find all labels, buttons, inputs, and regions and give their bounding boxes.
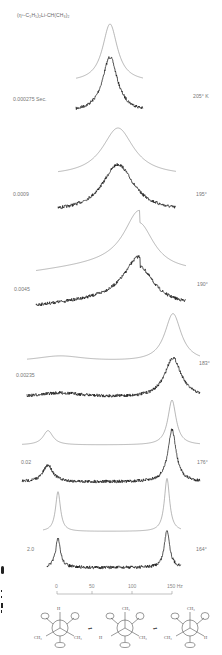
- svg-text:CH₃: CH₃: [164, 635, 172, 640]
- equilibrium-arrow-icon: ⇌: [153, 626, 157, 631]
- calculated-spectrum-5: [22, 400, 200, 445]
- temperature-label-1: 205° K: [193, 93, 209, 99]
- calculated-spectrum-4: [27, 314, 200, 360]
- page-edge-mark: [1, 590, 2, 592]
- lifetime-label-1: 0.000275 Sec.: [13, 96, 46, 102]
- page-edge-mark: [1, 610, 2, 613]
- svg-text:CH₃: CH₃: [139, 635, 147, 640]
- page-edge-mark: [1, 603, 3, 608]
- svg-text:CH₃: CH₃: [34, 635, 42, 640]
- svg-text:CH₃: CH₃: [74, 635, 82, 640]
- calculated-spectrum-3: [36, 210, 186, 270]
- experimental-spectrum-2: [58, 163, 176, 208]
- x-tick-150: 150 Hz: [167, 583, 183, 589]
- svg-text:CH₃: CH₃: [187, 606, 195, 611]
- newman-projection-3: CH₃ CH₃ H: [164, 606, 209, 648]
- newman-projection-2: CH₃ H CH₃: [99, 606, 147, 648]
- svg-text:CH₃: CH₃: [122, 606, 130, 611]
- experimental-spectrum-5: [22, 429, 200, 483]
- temperature-label-3: 190°: [197, 281, 208, 287]
- lifetime-label-2: 0.0009: [13, 191, 29, 197]
- experimental-spectrum-1: [76, 57, 143, 110]
- temperature-label-4: 183°: [199, 360, 210, 366]
- page-edge-mark: [1, 596, 2, 598]
- temperature-label-6: 164°: [196, 546, 207, 552]
- experimental-spectrum-4: [27, 357, 200, 397]
- experimental-spectrum-6: [47, 531, 181, 569]
- lifetime-label-6: 2.0: [27, 546, 34, 552]
- lifetime-label-3: 0.0045: [14, 286, 30, 292]
- svg-text:H: H: [204, 635, 208, 640]
- experimental-spectrum-3: [36, 255, 186, 305]
- x-tick-100: 100: [128, 583, 136, 589]
- calculated-spectrum-6: [43, 478, 181, 531]
- newman-projection-1: H CH₃ CH₃: [34, 606, 82, 648]
- lifetime-label-4: 0.00235: [16, 372, 35, 378]
- page-edge-mark: [1, 566, 4, 574]
- temperature-label-2: 195°: [196, 191, 207, 197]
- newman-projections: H CH₃ CH₃⇌ CH₃ H CH₃⇌: [30, 602, 220, 652]
- x-axis: [0, 580, 222, 600]
- svg-text:H: H: [99, 635, 103, 640]
- svg-text:H: H: [57, 606, 61, 611]
- equilibrium-arrow-icon: ⇌: [88, 626, 92, 631]
- x-tick-0: 0: [55, 583, 58, 589]
- x-tick-50: 50: [89, 583, 95, 589]
- calculated-spectrum-1: [76, 24, 143, 78]
- lifetime-label-5: 0.02: [21, 459, 31, 465]
- spectra-plot: [0, 0, 222, 600]
- temperature-label-5: 176°: [197, 459, 208, 465]
